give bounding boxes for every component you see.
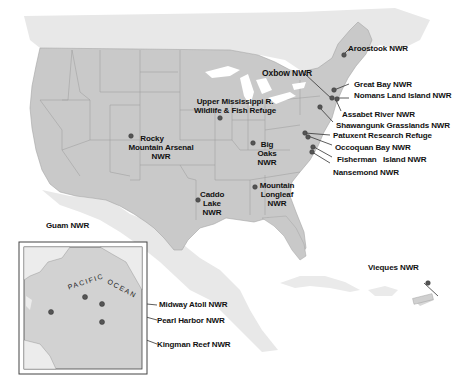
label-fisherman: Fisherman Island NWR: [337, 155, 426, 164]
label-rocky-line3: NWR: [128, 152, 194, 161]
label-guam: Guam NWR: [46, 221, 89, 230]
label-vieques: Vieques NWR: [368, 263, 419, 272]
label-rocky-mountain: Rocky Mountain Arsenal NWR: [128, 134, 194, 161]
label-kingman: Kingman Reef NWR: [157, 340, 231, 349]
hispaniola-land: [368, 286, 398, 296]
label-great-bay: Great Bay NWR: [354, 80, 412, 89]
label-longleaf-line2: Longleaf: [257, 190, 297, 199]
label-upper-mississippi-line1: Upper Mississippi R.: [190, 97, 280, 106]
label-midway: Midway Atoll NWR: [159, 300, 227, 309]
label-pearl-harbor: Pearl Harbor NWR: [157, 316, 225, 325]
label-big-oaks-line3: NWR: [255, 158, 279, 167]
pacific-inset: [19, 242, 147, 374]
label-assabet: Assabet River NWR: [342, 110, 415, 119]
label-caddo-line3: NWR: [200, 208, 224, 217]
label-big-oaks-line1: Big: [255, 140, 279, 149]
label-rocky-line1: Rocky: [128, 134, 194, 143]
label-oxbow: Oxbow NWR: [262, 69, 312, 78]
label-shawangunk: Shawangunk Grasslands NWR: [336, 121, 450, 130]
label-upper-mississippi-line2: Wildlife & Fish Refuge: [190, 106, 280, 115]
label-occoquan: Occoquan Bay NWR: [335, 143, 411, 152]
label-big-oaks-line2: Oaks: [255, 149, 279, 158]
label-big-oaks: Big Oaks NWR: [255, 140, 279, 167]
label-caddo-lake: Caddo Lake NWR: [200, 190, 224, 217]
refuge-map: [0, 0, 461, 388]
label-longleaf-line3: NWR: [257, 199, 297, 208]
label-nomans-land: Nomans Land Island NWR: [354, 91, 451, 100]
label-mountain-longleaf: Mountain Longleaf NWR: [257, 181, 297, 208]
label-nansemond: Nansemond NWR: [333, 168, 399, 177]
label-upper-mississippi: Upper Mississippi R. Wildlife & Fish Ref…: [190, 97, 280, 115]
label-patuxent: Patuxent Research Refuge: [333, 131, 432, 140]
label-caddo-line1: Caddo: [200, 190, 224, 199]
cuba-land: [280, 276, 360, 292]
label-caddo-line2: Lake: [200, 199, 224, 208]
label-rocky-line2: Mountain Arsenal: [128, 143, 194, 152]
label-longleaf-line1: Mountain: [257, 181, 297, 190]
label-aroostook: Aroostook NWR: [348, 44, 408, 53]
